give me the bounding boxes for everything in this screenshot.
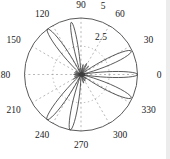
rtick-label-5: 5 — [101, 1, 106, 11]
polar-plot-screenshot: 03060901201501802102402703003302.55 — [0, 0, 170, 159]
main-lobe-25 — [81, 51, 131, 75]
angle-label-0: 0 — [157, 70, 162, 80]
angle-label-180: 180 — [0, 70, 10, 80]
angle-label-270: 270 — [74, 140, 89, 150]
polar-radiation-pattern-chart: 03060901201501802102402703003302.55 — [0, 0, 170, 159]
angle-label-240: 240 — [35, 130, 50, 140]
angle-label-60: 60 — [115, 9, 125, 19]
angle-label-90: 90 — [76, 0, 86, 10]
rtick-label-2.5: 2.5 — [95, 32, 107, 42]
grid-spoke-30 — [81, 46, 130, 74]
center-blob — [79, 72, 85, 76]
angle-label-330: 330 — [141, 105, 156, 115]
angle-label-210: 210 — [6, 105, 21, 115]
grid-spoke-330 — [81, 75, 130, 103]
angle-label-120: 120 — [35, 9, 50, 19]
angle-label-300: 300 — [113, 130, 128, 140]
main-lobe-259 — [69, 75, 81, 130]
angle-label-30: 30 — [144, 35, 154, 45]
main-lobe-233 — [47, 75, 81, 120]
main-lobe-100.5 — [71, 22, 81, 74]
angle-label-150: 150 — [6, 35, 21, 45]
main-lobe-335 — [81, 75, 131, 99]
page-edge — [166, 0, 170, 159]
